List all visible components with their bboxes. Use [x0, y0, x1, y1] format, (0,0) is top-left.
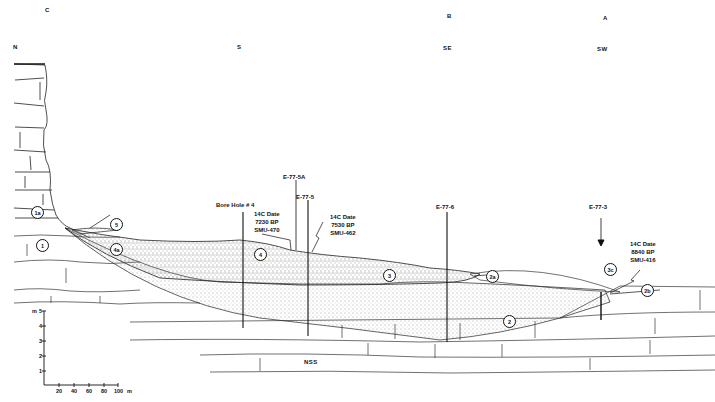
- unit-4-marker: 4: [254, 248, 267, 261]
- borehole-label-e775: E-77-5: [296, 193, 314, 201]
- cross-section-drawing: [0, 0, 715, 402]
- bedrock-label-nss: NSS: [304, 359, 318, 365]
- c14-date-smu416: 14C Date 8840 BP SMU-416: [630, 240, 656, 264]
- scale-y-tick-3: 3: [39, 338, 42, 344]
- scale-y-tick-4: 4: [39, 323, 42, 329]
- c14-date-smu470: 14C Date 7230 BP SMU-470: [254, 210, 280, 234]
- scale-y-tick-5: 5: [39, 308, 42, 314]
- section-point-c: C: [45, 7, 50, 13]
- scale-y-tick-1: 1: [39, 368, 42, 374]
- scale-vertical-unit: m: [32, 308, 37, 314]
- unit-3c-marker: 3c: [604, 263, 617, 276]
- scale-x-tick-80: 80: [101, 388, 107, 394]
- scale-x-tick-40: 40: [71, 388, 77, 394]
- scale-x-tick-100: 100: [114, 388, 123, 394]
- c14-date-smu462: 14C Date 7530 BP SMU-462: [330, 213, 356, 237]
- c14-lab: SMU-470: [254, 226, 280, 234]
- scale-x-tick-20: 20: [56, 388, 62, 394]
- unit-4a-marker: 4a: [110, 243, 123, 256]
- unit-5-marker: 5: [110, 218, 123, 231]
- unit-2a-marker: 2a: [486, 270, 499, 283]
- section-point-a: A: [603, 15, 608, 21]
- c14-lab: SMU-416: [630, 256, 656, 264]
- cliff-bedrock: [14, 64, 90, 238]
- unit-1-marker: 1: [36, 239, 49, 252]
- scale-y-tick-2: 2: [39, 353, 42, 359]
- c14-value: 7530 BP: [330, 221, 356, 229]
- orientation-sw: SW: [597, 46, 608, 52]
- orientation-s: S: [237, 44, 242, 50]
- borehole-label-e773: E-77-3: [589, 203, 607, 211]
- c14-value: 7230 BP: [254, 218, 280, 226]
- unit-1a-marker: 1a: [31, 206, 44, 219]
- c14-lab: SMU-462: [330, 229, 356, 237]
- c14-header: 14C Date: [254, 210, 280, 218]
- scale-horizontal-unit: m: [127, 388, 132, 394]
- orientation-n: N: [13, 44, 18, 50]
- borehole-label-bh4: Bore Hole # 4: [216, 201, 254, 209]
- unit-3-marker: 3: [383, 269, 396, 282]
- borehole-label-e776: E-77-6: [436, 203, 454, 211]
- borehole-label-e775a: E-77-5A: [283, 173, 305, 181]
- unit-2b-marker: 2b: [641, 284, 654, 297]
- scale-x-tick-60: 60: [86, 388, 92, 394]
- scale-bar: [42, 311, 118, 387]
- orientation-se: SE: [443, 45, 452, 51]
- unit-2-marker: 2: [503, 315, 516, 328]
- section-point-b: B: [447, 13, 452, 19]
- c14-value: 8840 BP: [630, 248, 656, 256]
- c14-header: 14C Date: [630, 240, 656, 248]
- c14-header: 14C Date: [330, 213, 356, 221]
